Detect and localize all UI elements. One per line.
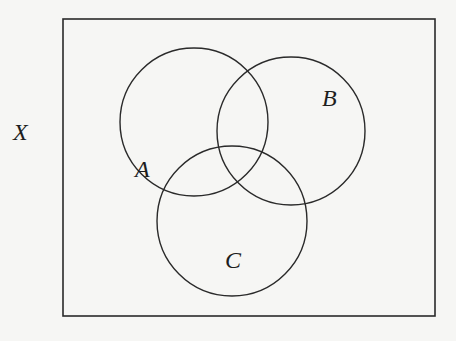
universe-label: X — [12, 119, 29, 145]
set-b-label: B — [322, 85, 337, 111]
venn-svg: X A B C — [0, 0, 456, 341]
venn-diagram: X A B C — [0, 0, 456, 341]
set-c-label: C — [225, 247, 242, 273]
set-c-circle — [157, 146, 307, 296]
set-a-label: A — [133, 156, 150, 182]
set-b-circle — [217, 57, 365, 205]
universe-rect — [63, 19, 435, 316]
